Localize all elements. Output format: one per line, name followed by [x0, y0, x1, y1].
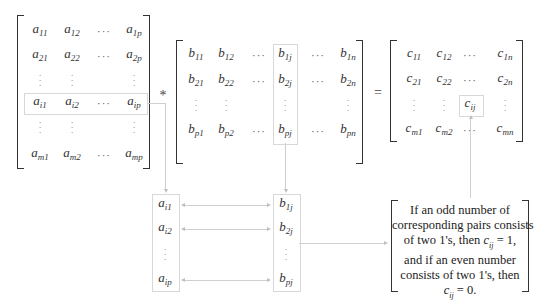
matrix-b-entry: ···: [347, 98, 350, 113]
row-vector-entry: aip: [158, 271, 172, 289]
matrix-c-entry: ···: [463, 74, 477, 86]
matrix-b-entry: ···: [195, 98, 198, 113]
column-vector-entry: ···: [285, 247, 288, 262]
row-vector-entry: ai1: [158, 196, 172, 214]
pair-arrow-right-p: [267, 278, 271, 282]
matrix-c-entry: c2n: [498, 71, 513, 89]
matrix-a-entry: am2: [63, 146, 81, 164]
matrix-a-entry: ···: [133, 73, 136, 88]
pair-line-p: [183, 280, 267, 281]
matrix-c-entry: c21: [407, 71, 422, 89]
matrix-a-entry: a12: [64, 22, 80, 40]
matrix-a-entry: a1p: [126, 22, 142, 40]
rule-line-3: of two 1's, then cij = 1,: [398, 233, 522, 253]
matrix-a-entry: ai1: [33, 94, 47, 112]
rule-line-1: If an odd number of: [398, 203, 522, 218]
matrix-a-entry: ···: [71, 73, 74, 88]
matrix-c-entry: ···: [413, 98, 416, 113]
arrow-to-rule: [384, 241, 388, 245]
matrix-b-entry: b12: [218, 46, 234, 64]
connector-row-out: [147, 103, 165, 104]
pair-arrow-left-2: [181, 227, 185, 231]
matrix-b-left-bracket: [176, 40, 183, 164]
connector-row-down: [165, 103, 166, 190]
matrix-a-entry: a2p: [126, 47, 142, 65]
matrix-b-entry: ···: [252, 75, 266, 87]
matrix-b-right-bracket: [356, 40, 363, 164]
matrix-b-entry: b11: [189, 46, 204, 64]
matrix-a-entry: aip: [127, 94, 141, 112]
matrix-b-entry: ···: [284, 98, 287, 113]
matrix-b-entry: b1n: [340, 46, 356, 64]
rule-line-4: and if an even number: [398, 253, 522, 268]
row-vector-entry: ···: [164, 247, 167, 262]
matrix-a-entry: ···: [97, 25, 111, 37]
matrix-b-entry: bpj: [278, 122, 292, 140]
rule-left-bracket: [391, 200, 398, 292]
matrix-b-entry: b2n: [340, 72, 356, 90]
rule-right-bracket: [522, 200, 529, 292]
matrix-b-entry: bp1: [188, 122, 204, 140]
pair-arrow-left-p: [181, 278, 185, 282]
matrix-b-entry: b21: [188, 72, 204, 90]
connector-to-rule: [299, 243, 384, 244]
matrix-a-right-bracket: [143, 15, 150, 169]
matrix-a-entry: ···: [39, 73, 42, 88]
matrix-a-entry: a21: [32, 47, 48, 65]
matrix-b-entry: ···: [252, 125, 266, 137]
pair-arrow-left-1: [181, 203, 185, 207]
matrix-a-entry: ai2: [65, 94, 79, 112]
rule-line-5: consists of two 1's, then: [398, 268, 522, 283]
connector-cij-down: [470, 119, 471, 198]
matrix-a-entry: ···: [97, 149, 111, 161]
matrix-b-entry: b1j: [278, 46, 292, 64]
arrow-down-row: [164, 189, 168, 193]
matrix-b-entry: b22: [218, 72, 234, 90]
row-vector-entry: ai2: [158, 220, 172, 238]
pair-arrow-right-1: [267, 203, 271, 207]
matrix-a-entry: a11: [33, 22, 48, 40]
matrix-a-entry: a22: [64, 47, 80, 65]
connector-col-down: [285, 143, 286, 190]
matrix-c-entry: cmn: [497, 121, 514, 139]
matrix-c-entry: c22: [437, 71, 452, 89]
matrix-c-entry: c12: [437, 46, 452, 64]
matrix-c-entry: c11: [407, 46, 421, 64]
arrow-up-cij: [469, 115, 473, 119]
matrix-a-left-bracket: [17, 15, 24, 169]
matrix-c-entry: cm1: [406, 121, 423, 139]
matrix-c-entry: ···: [504, 98, 507, 113]
column-vector-entry: b2j: [279, 220, 293, 238]
matrix-b-entry: ···: [311, 75, 325, 87]
arrow-down-col: [284, 189, 288, 193]
matrix-b-entry: ···: [225, 98, 228, 113]
matrix-a-entry: amp: [125, 146, 143, 164]
rule-line-6: cij = 0.: [398, 283, 522, 303]
matrix-b-entry: ···: [311, 125, 325, 137]
matrix-c-entry: c1n: [498, 46, 513, 64]
rule-line-2: corresponding pairs consists: [392, 218, 528, 233]
matrix-c-entry: ···: [463, 49, 477, 61]
matrix-c-right-bracket: [516, 40, 523, 142]
equals-operator: =: [374, 85, 382, 101]
matrix-a-entry: ···: [97, 97, 111, 109]
matrix-a-entry: ···: [39, 120, 42, 135]
matrix-c-left-bracket: [390, 40, 397, 142]
rule-description: If an odd number of corresponding pairs …: [398, 203, 522, 302]
column-vector-entry: bpj: [279, 271, 293, 289]
matrix-c-entry: ···: [443, 98, 446, 113]
matrix-c-entry: cij: [465, 96, 476, 114]
matrix-b-entry: bpn: [340, 122, 356, 140]
matrix-b-entry: bp2: [218, 122, 234, 140]
matrix-a-entry: am1: [31, 146, 49, 164]
pair-line-2: [183, 229, 267, 230]
matrix-b-entry: b2j: [278, 72, 292, 90]
column-vector-entry: b1j: [279, 196, 293, 214]
multiply-operator: *: [160, 88, 167, 104]
matrix-c-entry: cm2: [436, 121, 453, 139]
matrix-a-entry: ···: [71, 120, 74, 135]
pair-arrow-right-2: [267, 227, 271, 231]
matrix-a-entry: ···: [97, 50, 111, 62]
matrix-a-entry: ···: [133, 120, 136, 135]
matrix-b-entry: ···: [252, 49, 266, 61]
